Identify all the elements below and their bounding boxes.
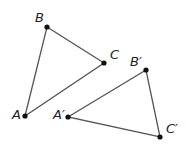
triangle-abc-prime: A′B′C′ xyxy=(52,54,178,140)
vertex-point xyxy=(143,67,148,72)
triangle-abc: ABC xyxy=(11,10,120,122)
vertex-label: A xyxy=(11,107,21,122)
vertex-label: C′ xyxy=(166,121,178,136)
vertex-label: B xyxy=(35,10,44,25)
vertex-point xyxy=(44,24,49,29)
vertex-point xyxy=(101,60,106,65)
vertex-point xyxy=(22,113,27,118)
triangle-edges xyxy=(68,70,160,137)
triangle-diagram: ABC A′B′C′ xyxy=(0,0,186,149)
vertex-label: B′ xyxy=(130,54,142,69)
vertex-point xyxy=(65,114,70,119)
vertex-label: C xyxy=(110,47,120,62)
vertex-label: A′ xyxy=(52,107,65,122)
vertex-point xyxy=(157,134,162,139)
